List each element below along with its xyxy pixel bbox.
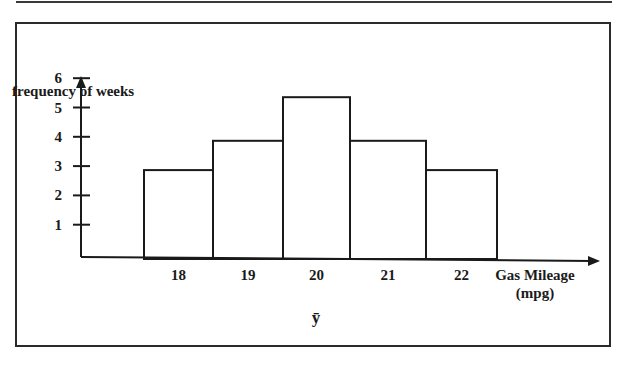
- mean-symbol: ȳ: [312, 308, 321, 327]
- x-axis-arrow-icon: [588, 256, 600, 266]
- histogram-chart: frequency of weeks 123456 1819202122 Gas…: [0, 0, 631, 368]
- bar-18: [144, 170, 213, 259]
- y-axis-label: frequency of weeks: [12, 83, 134, 99]
- bar-21: [350, 141, 426, 259]
- y-tick-label: 4: [55, 129, 63, 145]
- bars: [144, 97, 497, 259]
- x-axis-tick-labels: 1819202122: [171, 267, 469, 283]
- y-tick-label: 6: [55, 70, 63, 86]
- y-tick-label: 1: [55, 217, 63, 233]
- bar-22: [426, 170, 497, 259]
- bar-20: [283, 97, 350, 259]
- bar-19: [213, 141, 283, 259]
- x-axis-label-line2: (mpg): [516, 285, 554, 302]
- x-tick-label: 20: [309, 267, 324, 283]
- y-tick-label: 5: [55, 100, 63, 116]
- x-axis-label-line1: Gas Mileage: [495, 267, 575, 283]
- x-tick-label: 22: [454, 267, 469, 283]
- x-tick-label: 19: [241, 267, 256, 283]
- y-tick-label: 2: [55, 187, 63, 203]
- x-tick-label: 21: [381, 267, 396, 283]
- x-tick-label: 18: [171, 267, 186, 283]
- y-tick-label: 3: [55, 158, 63, 174]
